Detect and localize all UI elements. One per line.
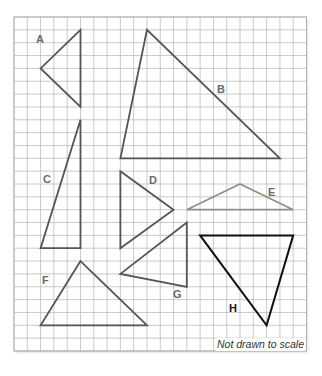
label-c: C bbox=[43, 173, 51, 185]
label-d: D bbox=[149, 174, 157, 186]
label-f: F bbox=[42, 274, 49, 286]
label-g: G bbox=[173, 288, 182, 300]
grid-diagram: A B C D E F G H bbox=[0, 0, 322, 376]
label-e: E bbox=[268, 186, 275, 198]
triangles-figure: A B C D E F G H Not drawn to scale bbox=[0, 0, 322, 376]
label-a: A bbox=[36, 33, 44, 45]
label-b: B bbox=[217, 83, 225, 95]
not-drawn-to-scale-note: Not drawn to scale bbox=[216, 338, 305, 351]
grid-paper bbox=[14, 17, 307, 351]
label-h: H bbox=[229, 302, 237, 314]
